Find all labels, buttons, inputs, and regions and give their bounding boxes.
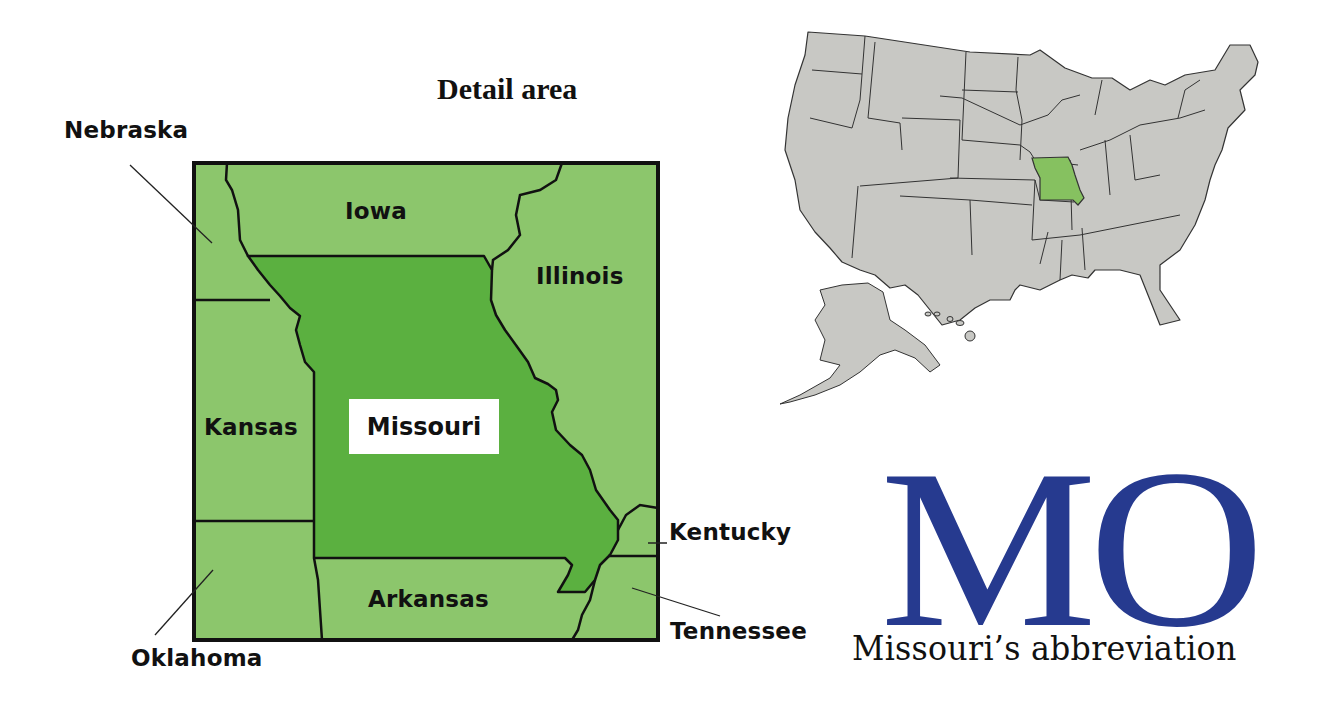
alaska-shape <box>780 283 940 404</box>
abbreviation-caption: Missouri’s abbreviation <box>852 628 1237 668</box>
lower-48-shape <box>785 32 1258 325</box>
hawaii-shape <box>925 312 975 341</box>
